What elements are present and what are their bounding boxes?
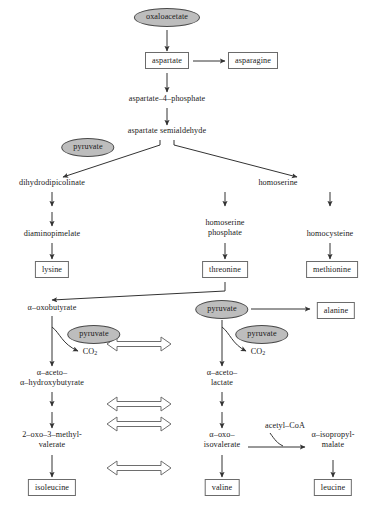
node-alpha-oxo-isovalerate: α–oxo– isovalerate xyxy=(204,430,241,450)
node-dihydrodipicolinate-label: dihydrodipicolinate xyxy=(19,178,85,187)
node-homocysteine-label: homocysteine xyxy=(307,229,354,238)
node-aspartate-4-phosphate-label: aspartate–4–phosphate xyxy=(129,94,206,103)
node-aspartate-label: aspartate xyxy=(152,56,182,65)
node-homocysteine: homocysteine xyxy=(307,229,354,239)
node-pyruvate-3-label: pyruvate xyxy=(207,304,236,313)
node-methionine-label: methionine xyxy=(313,265,351,274)
node-pyruvate-1[interactable]: pyruvate xyxy=(61,138,114,157)
node-aspartate-semialdehyde: aspartate semialdehyde xyxy=(128,126,206,136)
node-methionine[interactable]: methionine xyxy=(306,261,358,278)
equilibrium-arrow-4 xyxy=(107,461,171,475)
node-homoserine-phosphate-line1: homoserine xyxy=(205,218,244,228)
node-aspartate[interactable]: aspartate xyxy=(145,52,189,69)
arrow-acetylcoa-feed xyxy=(270,433,283,446)
node-alpha-aceto-lactate-line1: α–aceto– xyxy=(207,368,238,378)
node-asparagine[interactable]: asparagine xyxy=(228,52,278,69)
node-valine[interactable]: valine xyxy=(205,479,240,496)
node-alpha-oxobutyrate: α–oxobutyrate xyxy=(28,303,77,313)
arrow-semialdehyde-to-homoserine xyxy=(174,140,297,177)
node-homoserine-label: homoserine xyxy=(258,178,297,187)
node-homoserine: homoserine xyxy=(258,178,297,188)
node-pyruvate-3[interactable]: pyruvate xyxy=(195,300,248,319)
node-pyruvate-1-label: pyruvate xyxy=(73,142,102,151)
node-oxaloacetate[interactable]: oxaloacetate xyxy=(134,8,200,27)
node-co2-left-label: CO xyxy=(83,347,95,356)
node-co2-right-subscript: 2 xyxy=(262,350,265,356)
node-threonine[interactable]: threonine xyxy=(202,261,248,278)
node-diaminopimelate-label: diaminopimelate xyxy=(24,229,81,238)
node-alpha-oxobutyrate-label: α–oxobutyrate xyxy=(28,303,77,312)
node-alpha-oxo-isovalerate-line1: α–oxo– xyxy=(204,430,241,440)
node-diaminopimelate: diaminopimelate xyxy=(24,229,81,239)
node-leucine[interactable]: leucine xyxy=(314,479,352,496)
node-acetyl-coa-label: acetyl–CoA xyxy=(265,421,305,430)
node-2-oxo-3-methylvalerate-line1: 2–oxo–3–methyl- xyxy=(22,430,82,440)
node-alpha-isopropylmalate: α–isopropyl- malate xyxy=(311,430,354,450)
node-threonine-label: threonine xyxy=(209,265,241,274)
node-asparagine-label: asparagine xyxy=(235,56,271,65)
node-dihydrodipicolinate: dihydrodipicolinate xyxy=(19,178,85,188)
equilibrium-arrows xyxy=(107,337,171,475)
node-alpha-aceto-lactate-line2: lactate xyxy=(207,378,238,388)
node-homoserine-phosphate: homoserine phosphate xyxy=(205,218,244,238)
node-pyruvate-4[interactable]: pyruvate xyxy=(235,325,288,344)
node-lysine-label: lysine xyxy=(42,265,62,274)
node-alpha-aceto-alpha-hydroxybutyrate-line2: α–hydroxybutyrate xyxy=(20,378,84,388)
node-pyruvate-2[interactable]: pyruvate xyxy=(67,325,120,344)
node-co2-right: CO2 xyxy=(251,347,266,359)
node-pyruvate-2-label: pyruvate xyxy=(79,329,108,338)
node-co2-right-label: CO xyxy=(251,347,263,356)
node-co2-left: CO2 xyxy=(83,347,98,359)
node-alanine[interactable]: alanine xyxy=(317,302,355,319)
node-acetyl-coa: acetyl–CoA xyxy=(265,421,305,431)
node-co2-left-subscript: 2 xyxy=(94,350,97,356)
node-homoserine-phosphate-line2: phosphate xyxy=(205,228,244,238)
node-aspartate-semialdehyde-label: aspartate semialdehyde xyxy=(128,126,206,135)
node-leucine-label: leucine xyxy=(321,483,345,492)
node-2-oxo-3-methylvalerate: 2–oxo–3–methyl- valerate xyxy=(22,430,82,450)
equilibrium-arrow-2 xyxy=(107,397,171,411)
node-alpha-aceto-alpha-hydroxybutyrate-line1: α–aceto– xyxy=(20,368,84,378)
node-alpha-oxo-isovalerate-line2: isovalerate xyxy=(204,440,241,450)
node-isoleucine-label: isoleucine xyxy=(35,483,69,492)
arrow-threonine-to-oxobutyrate xyxy=(52,282,225,300)
node-oxaloacetate-label: oxaloacetate xyxy=(146,12,188,21)
node-isoleucine[interactable]: isoleucine xyxy=(28,479,76,496)
node-alpha-aceto-alpha-hydroxybutyrate: α–aceto– α–hydroxybutyrate xyxy=(20,368,84,388)
node-alpha-isopropylmalate-line1: α–isopropyl- xyxy=(311,430,354,440)
node-alpha-isopropylmalate-line2: malate xyxy=(311,440,354,450)
node-pyruvate-4-label: pyruvate xyxy=(247,329,276,338)
pathway-diagram: oxaloacetate aspartate asparagine aspart… xyxy=(0,0,372,508)
node-aspartate-4-phosphate: aspartate–4–phosphate xyxy=(129,94,206,104)
node-alpha-aceto-lactate: α–aceto– lactate xyxy=(207,368,238,388)
node-2-oxo-3-methylvalerate-line2: valerate xyxy=(22,440,82,450)
node-lysine[interactable]: lysine xyxy=(35,261,69,278)
equilibrium-arrow-3 xyxy=(107,417,171,431)
node-alanine-label: alanine xyxy=(324,306,348,315)
node-valine-label: valine xyxy=(212,483,233,492)
